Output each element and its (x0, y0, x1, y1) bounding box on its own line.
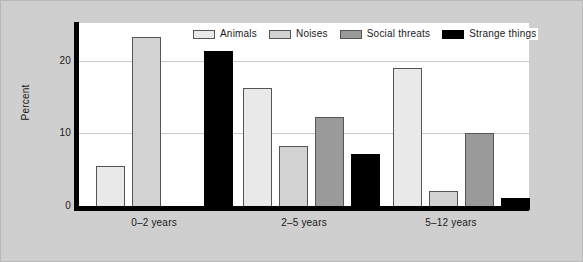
bar (393, 68, 422, 210)
bar (279, 146, 308, 210)
legend-label: Strange things (469, 29, 536, 39)
y-axis-ticks: 20 10 0 (45, 1, 71, 262)
legend-label: Animals (220, 29, 257, 39)
legend: AnimalsNoisesSocial threatsStrange thing… (191, 28, 538, 40)
legend-item: Social threats (340, 29, 430, 39)
legend-item: Noises (269, 29, 328, 39)
legend-swatch-icon (193, 30, 215, 39)
chart-figure: 20 10 0 Percent 0–2 years 2–5 years 5–12… (0, 0, 583, 262)
bar (315, 117, 344, 210)
legend-swatch-icon (269, 30, 291, 39)
category-label-1: 2–5 years (244, 217, 364, 228)
y-tick-label-20: 20 (49, 56, 71, 66)
legend-item: Animals (193, 29, 257, 39)
legend-item: Strange things (442, 29, 536, 39)
bar (204, 51, 233, 210)
y-tick-label-0: 0 (49, 201, 71, 211)
bar (351, 154, 380, 210)
bar (96, 166, 125, 210)
y-axis-line (74, 22, 79, 211)
legend-swatch-icon (340, 30, 362, 39)
bar (132, 37, 161, 210)
category-label-2: 5–12 years (391, 217, 511, 228)
y-tick-label-10: 10 (49, 128, 71, 138)
x-axis-line (74, 206, 529, 211)
legend-swatch-icon (442, 30, 464, 39)
bar (243, 88, 272, 210)
y-axis-title: Percent (20, 73, 31, 133)
bar (465, 133, 494, 210)
legend-label: Social threats (367, 29, 430, 39)
plot-area (78, 23, 529, 210)
category-label-0: 0–2 years (94, 217, 214, 228)
legend-label: Noises (296, 29, 328, 39)
